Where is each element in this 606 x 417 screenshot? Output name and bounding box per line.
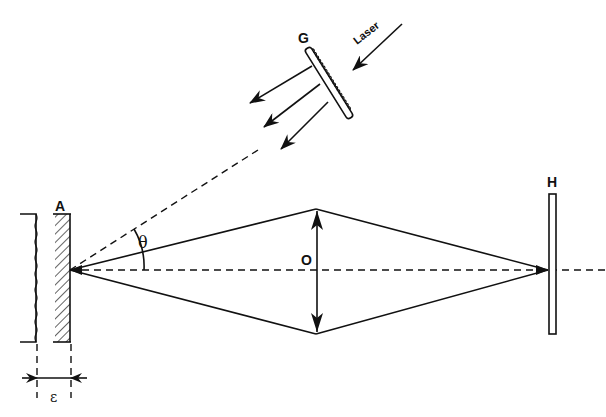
label-g: G [298,30,309,46]
ray-upper-left [70,209,316,270]
optical-diagram: A ε θ O H G Laser [0,0,606,417]
reference-beam-dashed [70,150,258,270]
ray-lower-left [70,270,316,334]
ray-upper-right [316,209,548,270]
label-laser: Laser [351,19,382,47]
label-theta: θ [138,233,148,252]
label-epsilon: ε [50,389,57,405]
ray-lower-right [316,270,548,334]
label-a: A [55,198,65,214]
grating-g [304,46,355,120]
substrate-bracket [20,214,36,342]
label-o: O [301,252,312,268]
hologram-h [549,194,556,334]
plate-a [55,214,70,342]
label-h: H [547,174,557,190]
